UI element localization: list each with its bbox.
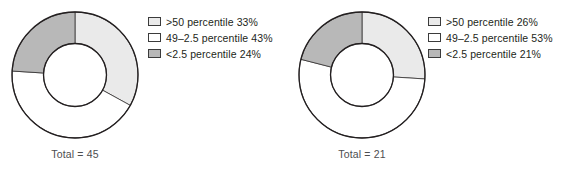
legend-item[interactable]: <2.5 percentile 21% bbox=[428, 46, 553, 61]
legend-label: <2.5 percentile 21% bbox=[446, 48, 541, 60]
legend-item[interactable]: <2.5 percentile 24% bbox=[148, 46, 273, 61]
legend-label: 49–2.5 percentile 53% bbox=[446, 32, 553, 44]
donut-outline bbox=[331, 44, 394, 107]
legend-swatch-icon bbox=[148, 49, 161, 58]
legend-item[interactable]: >50 percentile 33% bbox=[148, 14, 273, 29]
chart-panel-right: Total = 21 >50 percentile 26% 49–2.5 per… bbox=[283, 0, 567, 175]
donut-svg-right bbox=[295, 8, 429, 142]
total-label-right: Total = 21 bbox=[295, 148, 429, 160]
donut-svg-left bbox=[8, 8, 142, 142]
legend-swatch-icon bbox=[148, 33, 161, 42]
donut-chart-left bbox=[8, 8, 142, 142]
legend-label: >50 percentile 33% bbox=[166, 16, 258, 28]
legend-label: 49–2.5 percentile 43% bbox=[166, 32, 273, 44]
donut-slice[interactable] bbox=[75, 12, 138, 105]
total-label-left: Total = 45 bbox=[8, 148, 142, 160]
legend-swatch-icon bbox=[428, 17, 441, 26]
donut-chart-right bbox=[295, 8, 429, 142]
legend-item[interactable]: 49–2.5 percentile 43% bbox=[148, 30, 273, 45]
legend-left: >50 percentile 33% 49–2.5 percentile 43%… bbox=[148, 14, 273, 62]
legend-swatch-icon bbox=[428, 33, 441, 42]
chart-panel-left: Total = 45 >50 percentile 33% 49–2.5 per… bbox=[0, 0, 283, 175]
legend-right: >50 percentile 26% 49–2.5 percentile 53%… bbox=[428, 14, 553, 62]
legend-swatch-icon bbox=[148, 17, 161, 26]
legend-label: <2.5 percentile 24% bbox=[166, 48, 261, 60]
legend-swatch-icon bbox=[428, 49, 441, 58]
donut-outline bbox=[44, 44, 107, 107]
donut-chart-figure: Total = 45 >50 percentile 33% 49–2.5 per… bbox=[0, 0, 567, 175]
legend-label: >50 percentile 26% bbox=[446, 16, 538, 28]
legend-item[interactable]: >50 percentile 26% bbox=[428, 14, 553, 29]
legend-item[interactable]: 49–2.5 percentile 53% bbox=[428, 30, 553, 45]
